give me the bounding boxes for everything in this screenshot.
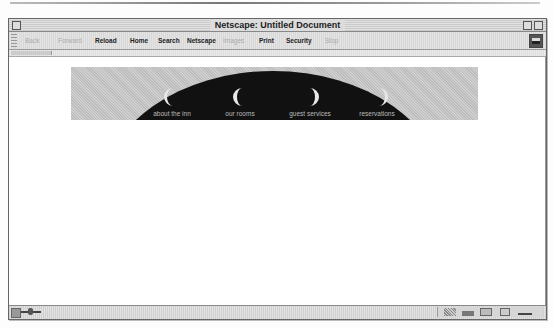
nav-link-reservations[interactable]: reservations	[359, 110, 394, 117]
close-box-icon[interactable]	[12, 21, 21, 30]
navigator-icon[interactable]	[444, 308, 456, 316]
site-banner: about the inn our rooms guest services r…	[71, 67, 478, 120]
desktop-edge	[10, 2, 540, 4]
component-bar	[437, 307, 543, 317]
waning-moon-icon[interactable]	[375, 87, 389, 107]
waxing-moon-icon[interactable]	[231, 87, 245, 107]
nav-link-our-rooms[interactable]: our rooms	[225, 110, 254, 117]
window-title: Netscape: Untitled Document	[210, 19, 346, 31]
nav-link-about-the-inn[interactable]: about the inn	[153, 110, 191, 117]
netscape-throbber-icon[interactable]	[529, 34, 543, 48]
waning-moon-icon[interactable]	[307, 87, 321, 107]
toolbar-grip-icon[interactable]	[11, 34, 17, 47]
page-content: about the inn our rooms guest services r…	[9, 57, 546, 305]
mail-icon[interactable]	[462, 311, 474, 316]
navigation-toolbar: Back Forward Reload Home Search Netscape…	[9, 32, 546, 50]
nav-link-guest-services[interactable]: guest services	[289, 110, 331, 117]
security-button[interactable]: Security	[286, 36, 312, 45]
home-button[interactable]: Home	[130, 36, 148, 45]
edit-icon[interactable]	[518, 308, 532, 315]
status-bar	[9, 305, 546, 319]
browser-window: Netscape: Untitled Document Back Forward…	[8, 18, 547, 320]
back-button[interactable]: Back	[25, 36, 39, 45]
title-bar[interactable]: Netscape: Untitled Document	[9, 19, 546, 32]
search-button[interactable]: Search	[158, 36, 180, 45]
forward-button[interactable]: Forward	[58, 36, 82, 45]
location-toolbar-collapsed[interactable]	[9, 50, 546, 57]
zoom-box-icon[interactable]	[523, 21, 532, 30]
stop-button[interactable]: Stop	[325, 36, 338, 45]
collapse-box-icon[interactable]	[534, 21, 543, 30]
connection-status-icon	[21, 311, 41, 313]
reload-button[interactable]: Reload	[95, 36, 117, 45]
waxing-moon-icon[interactable]	[163, 87, 177, 107]
netscape-button[interactable]: Netscape	[187, 36, 216, 45]
print-button[interactable]: Print	[259, 36, 274, 45]
composer-icon[interactable]	[480, 308, 492, 316]
location-tab[interactable]	[11, 51, 52, 55]
images-button[interactable]: Images	[223, 36, 244, 45]
address-book-icon[interactable]	[500, 308, 510, 316]
security-lock-icon[interactable]	[11, 308, 21, 318]
